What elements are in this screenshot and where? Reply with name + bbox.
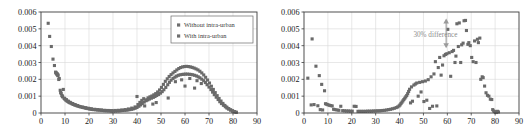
data-point: [208, 81, 211, 84]
data-point: [477, 41, 480, 44]
data-point: [323, 89, 326, 92]
x-tick-label: 70: [467, 117, 475, 126]
data-point: [162, 83, 165, 86]
data-point: [113, 109, 116, 112]
data-point: [424, 79, 427, 82]
data-point: [459, 61, 462, 64]
x-tick-label: 80: [491, 117, 499, 126]
x-tick-label: 70: [205, 117, 213, 126]
data-point: [127, 107, 130, 110]
data-point: [483, 85, 486, 88]
data-point: [130, 107, 133, 110]
x-tick-label: 20: [348, 117, 356, 126]
data-point: [210, 85, 213, 88]
data-point: [310, 103, 313, 106]
data-point: [155, 101, 158, 104]
data-point: [56, 73, 59, 76]
data-point: [421, 80, 424, 83]
data-point: [487, 95, 490, 98]
data-point: [93, 108, 96, 111]
data-point: [473, 39, 476, 42]
data-point: [318, 74, 321, 77]
y-tick-label: 0.001: [18, 92, 36, 101]
data-point: [316, 104, 319, 107]
data-point: [478, 37, 481, 40]
data-point: [449, 75, 452, 78]
data-point: [420, 90, 423, 93]
legend-marker: [177, 34, 180, 37]
data-point: [143, 104, 146, 107]
chart-panel-left: 010203040506070809000.0010.0020.0030.004…: [0, 0, 263, 135]
figure-two-scatter-panels: 010203040506070809000.0010.0020.0030.004…: [0, 0, 525, 135]
data-point: [174, 80, 177, 83]
legend-label: Without intra-urban: [184, 21, 235, 28]
data-point: [454, 55, 457, 58]
y-tick-label: 0.002: [281, 75, 299, 84]
data-point: [81, 106, 84, 109]
data-point: [97, 108, 100, 111]
data-point: [428, 107, 431, 110]
difference-annotation-label: 30% difference: [413, 31, 457, 39]
data-point: [84, 106, 87, 109]
data-point: [470, 56, 473, 59]
x-tick-label: 60: [443, 117, 451, 126]
data-point: [337, 109, 340, 112]
data-point: [452, 49, 455, 52]
difference-arrowhead-up: [443, 18, 449, 23]
data-point: [135, 95, 138, 98]
x-tick-label: 90: [515, 117, 523, 126]
data-point: [58, 77, 61, 80]
data-point: [462, 42, 465, 45]
data-point: [151, 103, 154, 106]
scatter-plot-left: 010203040506070809000.0010.0020.0030.004…: [0, 0, 263, 135]
x-tick-label: 40: [395, 117, 403, 126]
data-point: [107, 109, 110, 112]
data-point: [474, 61, 477, 64]
data-point: [183, 85, 186, 88]
y-tick-label: 0.001: [281, 92, 299, 101]
y-tick-label: 0: [295, 109, 299, 118]
data-point: [188, 77, 191, 80]
data-point: [164, 86, 167, 89]
data-point: [62, 88, 65, 91]
data-point: [430, 75, 433, 78]
y-tick-label: 0.005: [18, 25, 36, 34]
data-point: [472, 60, 475, 63]
data-point: [339, 105, 342, 108]
data-point: [50, 45, 53, 48]
data-point: [448, 51, 451, 54]
data-point: [464, 19, 467, 22]
x-tick-label: 50: [419, 117, 427, 126]
data-point: [200, 82, 203, 85]
legend-label: With intra-urban: [184, 32, 227, 39]
data-point: [214, 91, 217, 94]
data-point: [458, 21, 461, 24]
data-point: [87, 107, 90, 110]
y-tick-label: 0.005: [281, 25, 299, 34]
data-point: [59, 91, 62, 94]
y-tick-label: 0.002: [18, 75, 36, 84]
data-point: [53, 64, 56, 67]
data-point: [453, 61, 456, 64]
data-point: [469, 44, 472, 47]
data-point: [312, 103, 315, 106]
data-point: [204, 76, 207, 79]
x-tick-label: 50: [157, 117, 165, 126]
data-point: [134, 105, 137, 108]
data-point: [467, 41, 470, 44]
data-point: [47, 22, 50, 25]
data-point: [180, 78, 183, 81]
y-tick-label: 0.004: [281, 42, 299, 51]
x-tick-label: 40: [133, 117, 141, 126]
data-point: [437, 66, 440, 69]
data-point: [117, 109, 120, 112]
x-tick-label: 30: [372, 117, 380, 126]
data-point: [432, 72, 435, 75]
data-point: [320, 83, 323, 86]
data-point: [123, 108, 126, 111]
x-tick-label: 10: [324, 117, 332, 126]
data-point: [490, 98, 493, 101]
y-tick-label: 0.006: [281, 8, 299, 17]
x-tick-label: 0: [302, 117, 306, 126]
data-point: [331, 104, 334, 107]
